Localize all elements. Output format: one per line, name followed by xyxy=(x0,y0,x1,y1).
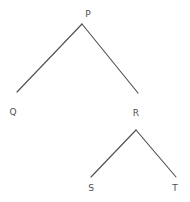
tree-node-label-p: P xyxy=(85,10,90,19)
tree-edges-layer xyxy=(0,0,190,202)
edges-group xyxy=(17,24,176,177)
tree-node-label-q: Q xyxy=(9,108,16,117)
tree-node-label-s: S xyxy=(88,184,94,193)
tree-diagram: PQRST xyxy=(0,0,190,202)
tree-node-label-r: R xyxy=(133,109,139,118)
tree-edge-r-s xyxy=(91,130,136,177)
tree-edge-p-r xyxy=(82,24,138,93)
tree-edge-p-q xyxy=(17,24,82,92)
tree-edge-r-t xyxy=(136,130,176,177)
tree-node-label-t: T xyxy=(172,184,178,193)
